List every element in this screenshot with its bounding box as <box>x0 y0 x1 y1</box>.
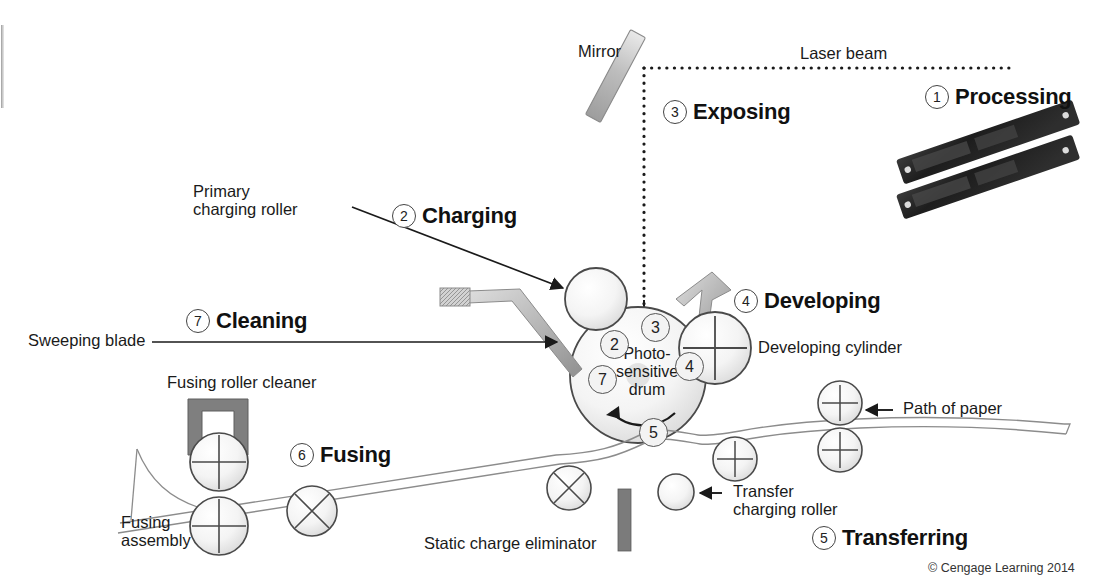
laser-beam-label: Laser beam <box>800 44 887 62</box>
fusing-roller-cleaner-label: Fusing roller cleaner <box>167 373 316 391</box>
copyright-notice: © Cengage Learning 2014 <box>928 561 1075 575</box>
static-charge-eliminator-part <box>618 489 631 551</box>
step-callout-charging: 2Charging <box>392 203 517 229</box>
developing-cylinder-label: Developing cylinder <box>758 338 902 356</box>
step-number-badge: 4 <box>734 289 758 313</box>
fusing-assembly-part <box>188 399 591 555</box>
mirror-label: Mirror <box>578 42 621 60</box>
step-callout-processing: 1Processing <box>925 84 1072 110</box>
drum-marker-7: 7 <box>588 365 617 394</box>
step-number-badge: 1 <box>925 85 949 109</box>
path-of-paper-label: Path of paper <box>903 399 1002 417</box>
transfer-charging-roller-part <box>658 474 694 510</box>
drum-marker-4: 4 <box>675 352 704 381</box>
step-number-badge: 7 <box>186 309 210 333</box>
step-label: Developing <box>764 288 881 314</box>
paper-path-lines <box>118 418 1070 533</box>
static-charge-eliminator-label: Static charge eliminator <box>424 534 596 552</box>
drum-marker-3: 3 <box>641 313 670 342</box>
step-callout-cleaning: 7Cleaning <box>186 308 307 334</box>
step-label: Exposing <box>693 99 790 125</box>
step-number-badge: 3 <box>663 100 687 124</box>
step-callout-fusing: 6Fusing <box>290 442 391 468</box>
step-callout-developing: 4Developing <box>734 288 881 314</box>
step-number-badge: 6 <box>290 443 314 467</box>
step-number-badge: 5 <box>812 526 836 550</box>
step-number-badge: 2 <box>392 204 416 228</box>
sweeping-blade-label: Sweeping blade <box>28 331 145 349</box>
step-callout-exposing: 3Exposing <box>663 99 790 125</box>
step-label: Fusing <box>320 442 391 468</box>
primary-charging-roller-label: Primary charging roller <box>193 182 298 219</box>
drum-marker-5: 5 <box>639 418 668 447</box>
step-label: Transferring <box>842 525 968 551</box>
memory-modules-image <box>896 99 1080 219</box>
primary-charging-roller <box>565 268 627 330</box>
drum-marker-2: 2 <box>600 330 629 359</box>
transfer-charging-roller-label: Transfer charging roller <box>733 482 838 519</box>
step-label: Charging <box>422 203 517 229</box>
step-label: Processing <box>955 84 1072 110</box>
fusing-assembly-label: Fusing assembly <box>121 513 191 550</box>
laser-printer-process-diagram: Mirror Laser beam Primary charging rolle… <box>0 0 1094 585</box>
step-callout-transferring: 5Transferring <box>812 525 968 551</box>
step-label: Cleaning <box>216 308 307 334</box>
sweeping-blade-part <box>440 288 582 377</box>
